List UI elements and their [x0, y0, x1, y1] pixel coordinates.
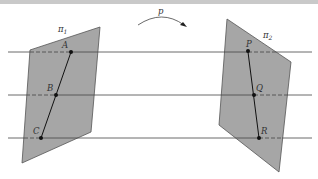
- point-r: [257, 136, 261, 140]
- diagram-canvas: A B C P Q R π1 π2 p: [0, 0, 318, 179]
- label-p: P: [245, 39, 252, 49]
- label-plane-pi2: π2: [262, 30, 273, 41]
- label-q: Q: [256, 83, 263, 93]
- point-b: [54, 93, 58, 97]
- point-p: [246, 49, 250, 53]
- label-a: A: [61, 40, 68, 50]
- label-b: B: [46, 83, 53, 93]
- point-q: [252, 93, 256, 97]
- mapping-label: p: [158, 6, 164, 16]
- point-a: [69, 50, 73, 54]
- label-c: C: [33, 126, 40, 136]
- point-c: [39, 136, 43, 140]
- label-plane-pi1: π1: [57, 24, 67, 35]
- mapping-arrow: [138, 17, 184, 25]
- label-r: R: [260, 126, 268, 136]
